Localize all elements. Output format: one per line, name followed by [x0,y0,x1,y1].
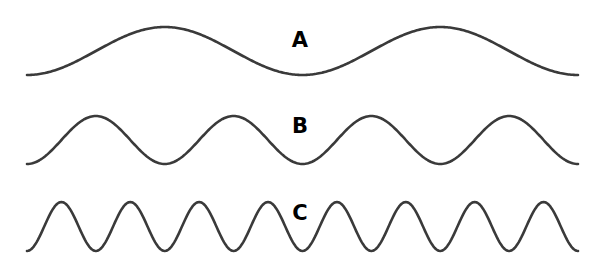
wave-a-label: A [292,30,308,51]
wave-b-label: B [292,116,308,137]
wave-comparison-diagram: A B C [0,0,599,267]
wave-c-label: C [292,203,307,224]
